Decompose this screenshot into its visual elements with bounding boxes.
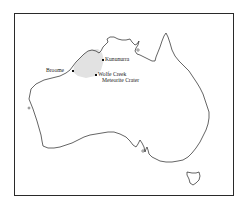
tasmania-outline — [187, 172, 200, 185]
groote-eylandt — [137, 49, 139, 51]
wolfe-creek-label-line2: Meteorite Crater — [102, 77, 139, 83]
kununurra-label: Kununurra — [105, 56, 129, 62]
broome-marker-icon — [72, 70, 74, 72]
australia-mainland-outline — [29, 33, 209, 162]
wolfe-creek-marker-icon — [95, 74, 97, 76]
kangaroo-island — [142, 150, 144, 152]
broome-label: Broome — [46, 67, 64, 73]
kununurra-marker-icon — [102, 59, 104, 61]
shark-bay-island — [28, 107, 30, 109]
australia-map — [0, 0, 247, 206]
